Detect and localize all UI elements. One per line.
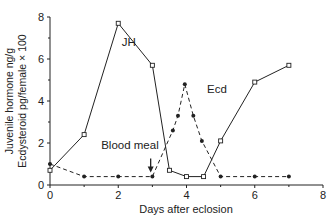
data-point	[82, 175, 86, 179]
line-chart: 0246802468 JHEcdBlood meal Days after ec…	[0, 0, 331, 219]
data-point	[219, 139, 223, 143]
y-tick-label: 2	[38, 137, 44, 149]
data-point	[150, 175, 154, 179]
data-point	[150, 63, 154, 67]
series-layer	[48, 21, 291, 178]
x-tick-label: 8	[320, 189, 326, 201]
y-axis-label-line1: Juvenile hormone ng/g	[3, 48, 15, 154]
data-point	[191, 114, 195, 118]
y-tick-label: 6	[38, 53, 44, 65]
y-tick-label: 4	[38, 95, 44, 107]
data-point	[48, 168, 52, 172]
data-point	[200, 139, 204, 143]
series-jh-line	[50, 23, 289, 176]
data-point	[219, 175, 223, 179]
data-point	[287, 175, 291, 179]
axes: 0246802468	[38, 11, 326, 201]
x-tick-label: 6	[252, 189, 258, 201]
data-point	[116, 175, 120, 179]
x-tick-label: 0	[47, 189, 53, 201]
data-point	[183, 82, 187, 86]
y-tick-label: 0	[38, 179, 44, 191]
data-point	[253, 80, 257, 84]
data-point	[82, 133, 86, 137]
x-axis-label: Days after eclosion	[139, 203, 233, 215]
data-point	[167, 168, 171, 172]
annotation-label: Ecd	[207, 83, 227, 95]
data-point	[287, 63, 291, 67]
data-point	[176, 114, 180, 118]
x-tick-label: 4	[183, 189, 189, 201]
data-point	[171, 128, 175, 132]
data-point	[48, 162, 52, 166]
annotation-label: JH	[122, 36, 136, 48]
y-axis-label-line2: Ecdysteroid pg/female × 100	[16, 34, 28, 168]
x-tick-label: 2	[115, 189, 121, 201]
data-point	[116, 21, 120, 25]
data-point	[253, 175, 257, 179]
data-point	[202, 175, 206, 179]
annotation-label: Blood meal	[101, 139, 159, 151]
data-point	[185, 175, 189, 179]
y-tick-label: 8	[38, 11, 44, 23]
